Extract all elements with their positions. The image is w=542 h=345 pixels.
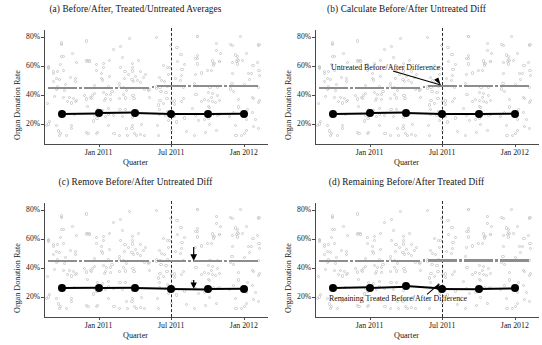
untreated-average-connector (115, 87, 118, 90)
scatter-point (108, 59, 111, 62)
untreated-average-connector (224, 85, 227, 88)
x-tick-a-2 (244, 144, 245, 147)
scatter-point (109, 93, 112, 96)
plot-area-b: 20%40%60%80%Jan 2011Jul 2011Jan 2012Untr… (271, 0, 542, 172)
scatter-point (234, 124, 237, 127)
x-tick-label-a-2: Jan 2012 (216, 148, 272, 157)
scatter-point (183, 63, 186, 66)
y-tick-label-a-1: 40% (10, 90, 40, 99)
scatter-point (58, 78, 61, 81)
scatter-point (119, 66, 122, 69)
scatter-point (121, 115, 124, 118)
panel-b: (b) Calculate Before/After Untreated Dif… (271, 0, 542, 172)
scatter-point (70, 127, 73, 130)
scatter-point (118, 134, 121, 137)
scatter-point (248, 78, 251, 81)
scatter-point (258, 74, 261, 77)
scatter-point (71, 52, 74, 55)
scatter-point (236, 58, 239, 61)
scatter-point (47, 66, 50, 69)
panel-a: (a) Before/After, Treated/Untreated Aver… (0, 0, 271, 172)
scatter-point (208, 123, 211, 126)
scatter-point (200, 71, 203, 74)
panel-c: (c) Remove Before/After Untreated DiffOr… (0, 173, 271, 345)
scatter-point (219, 52, 222, 55)
scatter-point (175, 46, 178, 49)
treated-average-segment (171, 113, 207, 115)
scatter-point (57, 129, 60, 132)
scatter-point (143, 134, 146, 137)
untreated-average-segment (157, 85, 186, 88)
scatter-point (240, 134, 243, 137)
scatter-point (215, 42, 218, 45)
untreated-average-segment (84, 87, 113, 90)
scatter-point (52, 72, 55, 75)
scatter-point (130, 127, 133, 130)
scatter-point (95, 117, 98, 120)
scatter-point (196, 62, 199, 65)
scatter-point (203, 98, 206, 101)
scatter-point (216, 94, 219, 97)
scatter-point (257, 43, 260, 46)
shift-arrows-c (0, 173, 271, 345)
scatter-point (95, 63, 98, 66)
treated-average-marker (167, 110, 175, 118)
scatter-point (123, 77, 126, 80)
treated-average-marker (204, 110, 212, 118)
scatter-point (118, 97, 121, 100)
scatter-point (83, 94, 86, 97)
scatter-point (127, 73, 130, 76)
scatter-point (85, 97, 88, 100)
scatter-point (251, 64, 254, 67)
scatter-point (59, 63, 62, 66)
scatter-point (204, 131, 207, 134)
scatter-point (256, 61, 259, 64)
scatter-point (245, 129, 248, 132)
scatter-point (88, 60, 91, 63)
scatter-point (175, 120, 178, 123)
scatter-point (112, 132, 115, 135)
scatter-point (194, 73, 197, 76)
scatter-point (193, 134, 196, 137)
scatter-point (66, 100, 69, 103)
scatter-point (179, 79, 182, 82)
scatter-point (164, 91, 167, 94)
untreated-average-connector (152, 86, 155, 89)
plot-area-c: 20%40%60%80%Jan 2011Jul 2011Jan 2012 (0, 173, 271, 345)
scatter-point (131, 69, 134, 72)
scatter-point (239, 35, 242, 38)
scatter-point (101, 78, 104, 81)
scatter-point (140, 123, 143, 126)
scatter-point (156, 124, 159, 127)
scatter-point (70, 124, 73, 127)
scatter-point (250, 72, 253, 75)
y-tick-a-2 (41, 66, 44, 67)
scatter-point (121, 56, 124, 59)
scatter-point (179, 53, 182, 56)
scatter-point (207, 91, 210, 94)
scatter-point (137, 59, 140, 62)
untreated-average-connector (188, 85, 191, 88)
y-axis-a (44, 30, 45, 144)
scatter-point (102, 62, 105, 65)
scatter-point (196, 35, 199, 38)
scatter-point (245, 52, 248, 55)
scatter-point (144, 73, 147, 76)
scatter-point (55, 124, 58, 127)
scatter-point (109, 98, 112, 101)
scatter-point (252, 125, 255, 128)
scatter-point (180, 74, 183, 77)
scatter-point (257, 101, 260, 104)
scatter-point (159, 90, 162, 93)
scatter-point (211, 92, 214, 95)
scatter-point (135, 134, 138, 137)
scatter-point (107, 107, 110, 110)
scatter-point (254, 118, 257, 121)
scatter-point (252, 97, 255, 100)
x-axis-a (44, 144, 268, 145)
scatter-point (104, 97, 107, 100)
scatter-point (104, 115, 107, 118)
y-tick-label-a-0: 20% (10, 119, 40, 128)
scatter-point (158, 108, 161, 111)
scatter-point (245, 118, 248, 121)
